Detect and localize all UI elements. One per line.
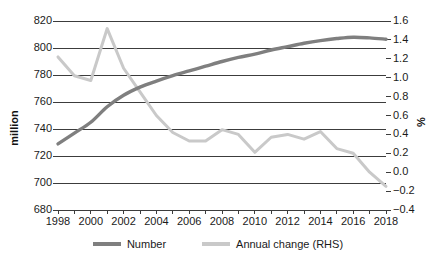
x-axis-tick-label: 2006	[171, 216, 207, 227]
y-axis-right-tick-label: 0.0	[393, 166, 425, 177]
x-axis-tick-label: 1998	[40, 216, 76, 227]
y-axis-left-tick-label: 740	[16, 123, 52, 134]
y-axis-right-tick-label: −0.2	[393, 185, 425, 196]
y-axis-left-tick-label: 780	[16, 69, 52, 80]
y-axis-right-tick-label: 1.4	[393, 34, 425, 45]
y-axis-left-tick-label: 800	[16, 42, 52, 53]
x-axis-tick-label: 2010	[237, 216, 273, 227]
x-axis-tick-label: 2016	[335, 216, 371, 227]
y-axis-left-tick-label: 760	[16, 96, 52, 107]
series-line-number	[58, 37, 386, 144]
y-axis-right-title: %	[415, 115, 427, 129]
x-axis-tick-label: 2012	[270, 216, 306, 227]
y-axis-right-tick-label: 1.0	[393, 72, 425, 83]
x-axis-tick-label: 2008	[204, 216, 240, 227]
chart-container: 680700720740760780800820 −0.4−0.20.00.20…	[0, 0, 436, 266]
legend-label: Number	[127, 238, 166, 250]
y-axis-right-tick-label: 1.2	[393, 53, 425, 64]
y-axis-left-tick-label: 820	[16, 15, 52, 26]
legend-color-swatch	[93, 242, 121, 246]
y-axis-left-title: million	[8, 98, 20, 158]
y-axis-left-tick-label: 700	[16, 177, 52, 188]
chart-legend: NumberAnnual change (RHS)	[0, 238, 436, 250]
x-axis-tick-label: 2004	[138, 216, 174, 227]
x-axis-tick-label: 2014	[302, 216, 338, 227]
legend-label: Annual change (RHS)	[236, 238, 343, 250]
x-axis-tick-label: 2002	[106, 216, 142, 227]
legend-color-swatch	[202, 242, 230, 246]
y-axis-left-tick-label: 720	[16, 150, 52, 161]
x-axis-tick-label: 2000	[73, 216, 109, 227]
y-axis-right-tick-label: 0.4	[393, 128, 425, 139]
y-axis-right-tick-label: −0.4	[393, 204, 425, 215]
y-axis-right-tick-label: 0.8	[393, 91, 425, 102]
legend-item-1[interactable]: Number	[93, 238, 166, 250]
legend-item-2[interactable]: Annual change (RHS)	[202, 238, 343, 250]
y-axis-right-tick-label: 1.6	[393, 15, 425, 26]
y-axis-left-tick-label: 680	[16, 204, 52, 215]
x-axis-tick-label: 2018	[368, 216, 404, 227]
y-axis-right-tick-label: 0.2	[393, 147, 425, 158]
